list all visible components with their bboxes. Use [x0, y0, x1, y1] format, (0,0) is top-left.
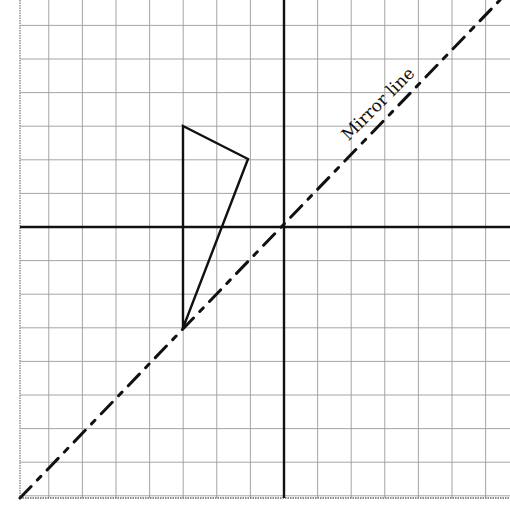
reflection-figure: Mirror line — [0, 0, 510, 517]
diagram-canvas: Mirror line — [0, 0, 510, 517]
mirror-line — [20, 0, 500, 498]
mirror-line-label: Mirror line — [337, 63, 418, 144]
